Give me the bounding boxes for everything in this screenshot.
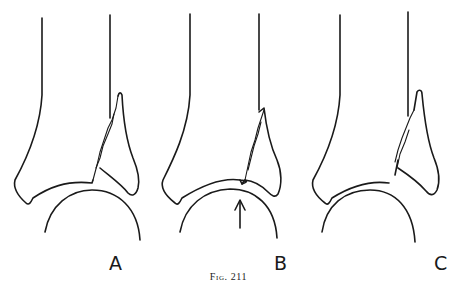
arrow-up-icon bbox=[235, 200, 245, 228]
panel-a-drawing bbox=[15, 15, 140, 240]
panel-c-fragment bbox=[398, 90, 439, 194]
panel-a-fragment bbox=[100, 93, 139, 195]
panel-b-talus bbox=[180, 189, 277, 238]
fracture-diagram bbox=[0, 0, 457, 287]
figure-211: A B C Fig. 211 bbox=[0, 0, 457, 287]
panel-a-tibia-outline bbox=[15, 18, 93, 204]
panel-c-talus bbox=[322, 190, 415, 242]
figure-caption: Fig. 211 bbox=[0, 271, 457, 282]
panel-c-fracture-line bbox=[395, 110, 414, 162]
panel-b-fragment bbox=[245, 108, 281, 196]
panel-b-drawing bbox=[162, 14, 281, 238]
panel-a-talus bbox=[45, 190, 140, 240]
panel-c-drawing bbox=[313, 12, 439, 242]
panel-c-tibia-outline bbox=[313, 15, 389, 204]
panel-b-tibia-outline bbox=[162, 14, 246, 204]
